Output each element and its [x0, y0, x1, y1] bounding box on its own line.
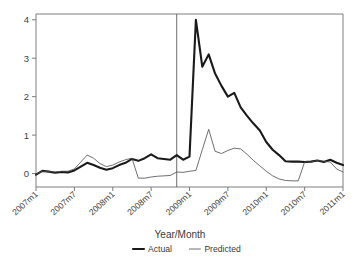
x-axis-ticks: 2007m12007m72008m12008m72009m12009m72010… — [10, 187, 347, 217]
x-tick-label: 2008m7 — [125, 189, 155, 217]
x-tick-label: 2009m7 — [202, 189, 232, 217]
series-line-actual — [36, 20, 343, 175]
y-tick-label: 1 — [24, 130, 29, 141]
y-tick-label: 4 — [24, 14, 29, 25]
y-tick-label: 0 — [24, 168, 29, 179]
x-axis-title-group: Year/Month — [155, 229, 206, 240]
x-axis-title: Year/Month — [155, 229, 206, 240]
chart-container: 01234 2007m12007m72008m12008m72009m12009… — [0, 0, 360, 263]
x-tick-label: 2011m1 — [318, 189, 347, 217]
y-tick-label: 2 — [24, 91, 29, 102]
x-tick-label: 2007m7 — [48, 189, 78, 217]
x-tick-label: 2008m1 — [87, 189, 117, 217]
x-tick-label: 2010m1 — [240, 189, 270, 217]
line-chart: 01234 2007m12007m72008m12008m72009m12009… — [0, 0, 360, 263]
y-tick-label: 3 — [24, 53, 29, 64]
y-axis-ticks: 01234 — [24, 14, 36, 179]
legend-label-predicted: Predicted — [204, 244, 241, 254]
chart-legend: ActualPredicted — [133, 244, 241, 254]
x-tick-label: 2007m1 — [10, 189, 40, 217]
data-series-group — [36, 20, 343, 181]
x-tick-label: 2010m7 — [279, 189, 309, 217]
x-tick-label: 2009m1 — [164, 189, 194, 217]
legend-label-actual: Actual — [148, 244, 172, 254]
